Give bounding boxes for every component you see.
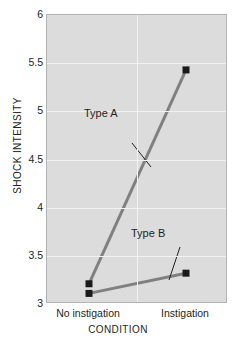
x-tick-label: Instigation [161, 307, 209, 319]
series-annotation-label: Type B [131, 227, 165, 239]
gridline-vertical [137, 15, 138, 302]
data-point-marker [86, 280, 93, 287]
y-tick-label: 3 [1, 297, 43, 309]
y-tick-label: 4.5 [1, 153, 43, 165]
y-axis-ticks: 33.544.555.56 [0, 0, 43, 344]
y-tick-label: 6 [1, 8, 43, 20]
chart-figure: SHOCK INTENSITY 33.544.555.56 No instiga… [0, 0, 236, 344]
data-point-marker [183, 66, 190, 73]
y-tick-label: 4 [1, 201, 43, 213]
series-annotation-label: Type A [84, 107, 118, 119]
x-axis-title: CONDITION [0, 324, 236, 335]
data-point-marker [183, 270, 190, 277]
y-tick-label: 5.5 [1, 56, 43, 68]
x-tick-label: No instigation [56, 307, 120, 319]
y-tick-label: 5 [1, 104, 43, 116]
plot-area [46, 14, 227, 303]
data-point-marker [86, 290, 93, 297]
y-tick-label: 3.5 [1, 249, 43, 261]
